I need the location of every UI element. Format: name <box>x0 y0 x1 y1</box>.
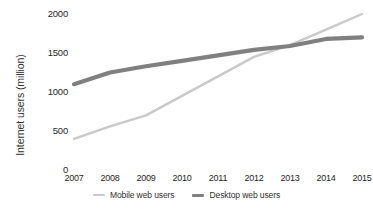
legend-item[interactable]: Desktop web users <box>192 190 280 200</box>
legend-item-label: Mobile web users <box>110 190 175 200</box>
x-axis-tick-label: 2010 <box>165 173 199 184</box>
x-axis-tick-label: 2012 <box>237 173 271 184</box>
y-axis-tick-label: 500 <box>34 126 68 136</box>
x-axis-tick-label: 2014 <box>309 173 343 184</box>
x-axis-tick-label: 2015 <box>345 173 373 184</box>
y-axis-tick-label: 2000 <box>34 9 68 19</box>
series-layer <box>74 14 362 139</box>
chart-legend: Mobile web usersDesktop web users <box>0 190 373 200</box>
legend-swatch-icon <box>192 194 204 197</box>
x-axis-tick-labels: 200720082009201020112012201320142015 <box>74 173 362 185</box>
x-axis-tick-label: 2009 <box>129 173 163 184</box>
x-axis-tick-label: 2007 <box>57 173 91 184</box>
plot-area <box>74 14 362 170</box>
x-axis-tick-label: 2011 <box>201 173 235 184</box>
y-axis-tick-label: 1500 <box>34 48 68 58</box>
x-axis-tick-label: 2013 <box>273 173 307 184</box>
legend-item-label: Desktop web users <box>209 190 280 200</box>
plot-svg <box>74 14 362 170</box>
legend-item[interactable]: Mobile web users <box>93 190 175 200</box>
x-axis-tick-label: 2008 <box>93 173 127 184</box>
series-line <box>74 14 362 139</box>
legend-swatch-icon <box>93 194 105 196</box>
line-chart: Internet users (million) 050010001500200… <box>0 0 373 217</box>
y-axis-tick-label: 1000 <box>34 87 68 97</box>
